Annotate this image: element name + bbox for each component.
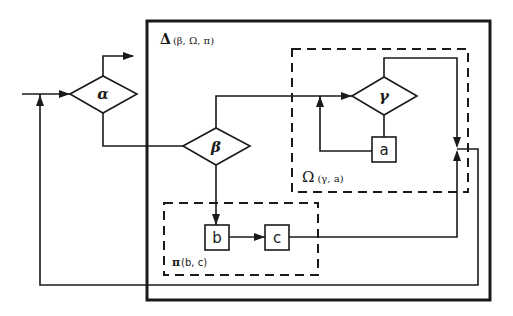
svg-text:β: β [210,138,221,156]
arrow-head-icon [453,137,461,148]
svg-text:a: a [379,141,388,159]
c-merge-edge [289,152,457,237]
process-a: a [372,137,396,162]
arrow-head-icon [59,90,70,98]
flowchart-diagram: Δ(β, Ω, π) Ω(γ, a) π(b, c) α [0,0,513,316]
arrow-head-icon [316,96,324,107]
process-b: b [205,225,229,250]
arrow-head-icon [341,92,352,100]
beta-gamma-edge [216,96,352,128]
alpha-beta-edge [103,113,183,146]
delta-group-label: Δ(β, Ω, π) [160,31,214,47]
arrow-head-icon [254,233,265,241]
pi-group-label: π(b, c) [172,256,207,269]
a-gamma-edge [320,96,372,151]
omega-group-label: Ω(γ, a) [302,168,344,186]
svg-text:b: b [212,229,222,247]
feedback-edge [40,94,478,285]
arrow-head-icon [123,52,134,60]
arrow-head-icon [212,214,220,225]
omega-group-box [292,49,468,192]
decision-beta: β [183,128,250,165]
arrow-head-icon [36,95,44,106]
svg-text:c: c [273,229,281,247]
svg-text:γ: γ [379,87,390,105]
arrow-head-icon [453,150,461,161]
decision-alpha: α [70,76,137,113]
process-c: c [265,225,289,250]
alpha-exit-edge [103,56,133,76]
decision-gamma: γ [352,77,417,115]
svg-text:α: α [97,85,109,103]
